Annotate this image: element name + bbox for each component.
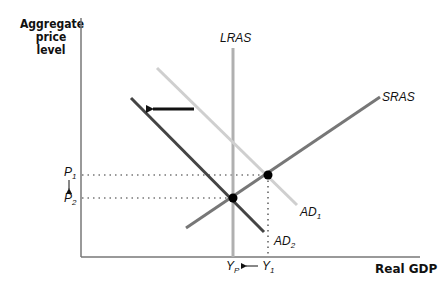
y1-label: Y1 — [262, 259, 274, 275]
ad2-curve — [131, 98, 264, 232]
ad-as-diagram: LRAS SRAS AD1 AD2 P1 P2 YP Y1 — [0, 0, 442, 287]
equilibrium-point-2 — [229, 194, 238, 203]
lras-label: LRAS — [220, 31, 251, 45]
ad2-label: AD2 — [273, 234, 296, 250]
sras-label: SRAS — [382, 90, 415, 104]
p1-label: P1 — [64, 165, 76, 181]
yp-label: YP — [226, 259, 240, 275]
ad1-curve — [157, 68, 297, 205]
p2-label: P2 — [64, 191, 77, 207]
ad1-label: AD1 — [299, 205, 321, 221]
equilibrium-point-1 — [264, 171, 273, 180]
sras-curve — [186, 97, 380, 228]
